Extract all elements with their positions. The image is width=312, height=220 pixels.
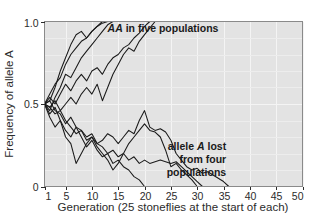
annotation-line: from four	[179, 153, 226, 165]
x-tick-label: 50	[292, 190, 304, 202]
x-tick-label: 1	[46, 190, 52, 202]
annotation-run: allele	[168, 140, 197, 152]
annotation-run: AA	[107, 22, 123, 34]
y-tick-label: 0.5	[24, 98, 39, 110]
genetic-drift-chart: 15101520253035404550 00.51.0 Generation …	[0, 0, 312, 220]
annotation-line: allele A lost	[168, 140, 227, 152]
annotation-run: lost	[205, 140, 227, 152]
fixation-annotation: AA in five populations	[107, 22, 219, 34]
annotation-run: in five populations	[123, 22, 219, 34]
y-tick-label: 1.0	[24, 17, 39, 29]
annotation-run: from four	[179, 153, 226, 165]
annotation-run: A	[196, 140, 205, 152]
x-axis-label: Generation (25 stoneflies at the start o…	[58, 201, 289, 213]
annotation-run: populations	[167, 166, 227, 178]
annotation-line: populations	[167, 166, 227, 178]
y-tick-label: 0	[33, 181, 39, 193]
y-axis-label: Frequency of allele A	[3, 50, 15, 158]
